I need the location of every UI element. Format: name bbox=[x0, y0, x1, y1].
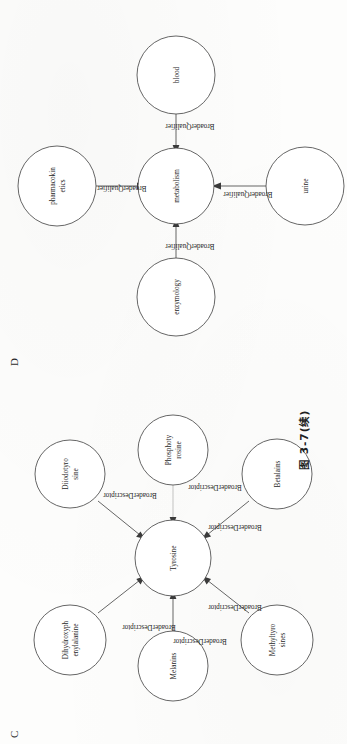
edge-label-phosphotyrosine-tyrosine: BroaderDescriptor bbox=[188, 483, 242, 491]
edge-label-urine-metabolism: BroaderQualifier bbox=[223, 190, 273, 198]
edge-urine-metabolism bbox=[212, 183, 266, 190]
node-methyltyrosines-label-line2: sines bbox=[279, 633, 287, 648]
figure-caption: 图 3-7(续) bbox=[296, 410, 311, 470]
node-metabolism[interactable]: metabolism bbox=[138, 148, 214, 224]
node-phosphotyrosine-label-line1: Phosphoty bbox=[165, 434, 173, 465]
node-blood-label: blood bbox=[173, 66, 181, 83]
edge-label-pharmacokinetics-metabolism: BroaderQualifier bbox=[97, 184, 147, 192]
panel-c-container: C bbox=[0, 372, 347, 744]
node-enzymology-label: enzymology bbox=[173, 279, 181, 315]
edge-label-betalains-tyrosine: BroaderDescriptor bbox=[208, 523, 262, 531]
node-dihydroxyphenylalanine[interactable]: Dihydroxyph enylalanine bbox=[34, 605, 106, 675]
node-diiodotyrosine-label-line1: Diiodotyro bbox=[62, 458, 70, 490]
panel-c-graph: Dihydroxyph enylalanine Diiodotyro sine … bbox=[0, 372, 347, 744]
panel-d-graph: pharmacokin etics enzymology metabolism … bbox=[0, 0, 347, 372]
figure-caption-container: 图 3-7(续) bbox=[296, 410, 311, 470]
node-methyltyrosines-label-line1: Methyltyro bbox=[269, 623, 277, 656]
node-tyrosine-label: Tyrosine bbox=[170, 545, 178, 570]
edge-label-dihydroxyphenylalanine-tyrosine: BroaderDescriptor bbox=[122, 623, 176, 631]
node-pharmacokinetics[interactable]: pharmacokin etics bbox=[18, 146, 96, 226]
edge-diiodotyrosine-tyrosine bbox=[98, 501, 145, 539]
edge-label-methyltyrosines-tyrosine: BroaderDescriptor bbox=[208, 603, 262, 611]
node-betalains-label: Betalains bbox=[274, 460, 282, 487]
edge-label-melanins-tyrosine: BroaderDescriptor bbox=[173, 637, 227, 645]
panel-c: C bbox=[0, 372, 347, 744]
node-dihydroxyphenylalanine-label-line2: enylalanine bbox=[72, 623, 80, 656]
node-melanins-label: Melanins bbox=[170, 652, 178, 679]
edge-label-diiodotyrosine-tyrosine: BroaderDescriptor bbox=[103, 491, 157, 499]
node-urine[interactable]: urine bbox=[266, 147, 344, 225]
node-methyltyrosines[interactable]: Methyltyro sines bbox=[241, 605, 313, 675]
edge-dihydroxyphenylalanine-tyrosine bbox=[98, 576, 145, 613]
node-diiodotyrosine-label-line2: sine bbox=[72, 468, 80, 480]
edge-label-blood-metabolism: BroaderQualifier bbox=[165, 122, 215, 130]
node-pharmacokinetics-label-line2: etics bbox=[59, 179, 67, 192]
panel-d-container: D bbox=[0, 0, 347, 372]
edge-betalains-tyrosine bbox=[202, 501, 249, 539]
edge-label-enzymology-metabolism: BroaderQualifier bbox=[165, 242, 215, 250]
node-urine-label: urine bbox=[302, 179, 310, 194]
node-metabolism-label: metabolism bbox=[173, 169, 181, 203]
node-diiodotyrosine[interactable]: Diiodotyro sine bbox=[35, 440, 105, 508]
node-dihydroxyphenylalanine-label-line1: Dihydroxyph bbox=[62, 620, 70, 659]
node-enzymology[interactable]: enzymology bbox=[137, 258, 215, 336]
node-phosphotyrosine-label-line2: rosine bbox=[175, 441, 183, 459]
node-tyrosine[interactable]: Tyrosine bbox=[135, 520, 211, 596]
scanned-page: D bbox=[0, 0, 347, 744]
node-phosphotyrosine[interactable]: Phosphoty rosine bbox=[138, 415, 208, 485]
panel-d: D bbox=[0, 0, 347, 372]
node-blood[interactable]: blood bbox=[137, 36, 215, 114]
node-pharmacokinetics-label-line1: pharmacokin bbox=[49, 167, 57, 205]
